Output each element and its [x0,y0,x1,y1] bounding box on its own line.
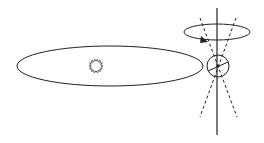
sun-icon [89,59,103,73]
precession-diagram [0,0,264,143]
orbit-ellipse [17,46,203,86]
